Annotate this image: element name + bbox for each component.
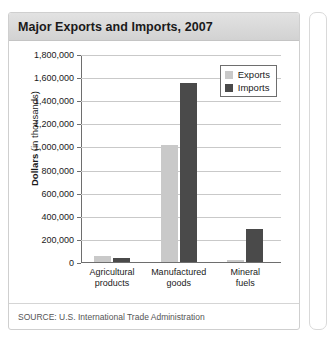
legend-label-exports: Exports bbox=[238, 69, 270, 80]
y-axis-tick bbox=[77, 78, 81, 79]
y-axis-label: 800,000 bbox=[41, 166, 74, 176]
y-axis-tick bbox=[77, 217, 81, 218]
y-axis-label: 1,400,000 bbox=[34, 96, 74, 106]
chart-card: Major Exports and Imports, 2007 Dollars … bbox=[8, 12, 300, 330]
bar-imports-mineral bbox=[246, 229, 263, 263]
legend-swatch-imports bbox=[225, 84, 233, 92]
y-axis-tick bbox=[77, 101, 81, 102]
y-axis-label: 400,000 bbox=[41, 212, 74, 222]
bar-imports-agricultural bbox=[113, 258, 130, 262]
y-axis-label: 1,800,000 bbox=[34, 50, 74, 60]
chart-body: Dollars (in thousands) 0200,000400,00060… bbox=[9, 41, 299, 303]
legend-item-exports: Exports bbox=[225, 69, 270, 80]
y-axis-label: 200,000 bbox=[41, 235, 74, 245]
y-axis-tick bbox=[77, 194, 81, 195]
y-axis-tick bbox=[77, 263, 81, 264]
y-axis-label: 600,000 bbox=[41, 189, 74, 199]
bar-exports-mineral bbox=[227, 260, 244, 262]
y-axis-tick bbox=[77, 240, 81, 241]
bar-group: Agriculturalproducts bbox=[89, 55, 156, 262]
y-axis-label: 1,200,000 bbox=[34, 119, 74, 129]
legend-label-imports: Imports bbox=[238, 82, 270, 93]
y-axis-line bbox=[81, 55, 82, 263]
legend-swatch-exports bbox=[225, 71, 233, 79]
y-axis-tick bbox=[77, 171, 81, 172]
bar-imports-manufactured bbox=[180, 83, 197, 262]
chart-footer: SOURCE: U.S. International Trade Adminis… bbox=[9, 303, 299, 329]
legend-item-imports: Imports bbox=[225, 82, 270, 93]
chart-header: Major Exports and Imports, 2007 bbox=[9, 13, 299, 41]
plot-area: 0200,000400,000600,000800,0001,000,0001,… bbox=[81, 55, 281, 263]
chart-legend: Exports Imports bbox=[220, 65, 277, 97]
y-axis-label: 1,600,000 bbox=[34, 73, 74, 83]
y-axis-title-bold: Dollars bbox=[29, 154, 40, 186]
y-axis-tick bbox=[77, 55, 81, 56]
bar-exports-agricultural bbox=[94, 256, 111, 262]
source-note: SOURCE: U.S. International Trade Adminis… bbox=[18, 312, 205, 322]
chart-title: Major Exports and Imports, 2007 bbox=[18, 20, 213, 34]
x-axis-label: Mineralfuels bbox=[202, 267, 288, 289]
y-axis-tick bbox=[77, 147, 81, 148]
x-axis-line bbox=[81, 262, 281, 263]
y-axis-tick bbox=[77, 124, 81, 125]
y-axis-label: 1,000,000 bbox=[34, 142, 74, 152]
bar-group: Manufacturedgoods bbox=[156, 55, 223, 262]
adjacent-card-edge bbox=[309, 12, 327, 330]
bar-exports-manufactured bbox=[161, 145, 178, 262]
